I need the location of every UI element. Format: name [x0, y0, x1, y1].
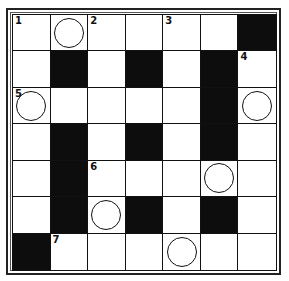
black-cell	[51, 197, 89, 233]
grid-cell[interactable]	[13, 161, 51, 197]
grid-cell[interactable]	[163, 51, 201, 87]
grid-cell[interactable]	[13, 51, 51, 87]
grid-cell[interactable]: 7	[51, 234, 89, 270]
clue-number: 1	[15, 15, 22, 26]
grid-cell[interactable]	[88, 88, 126, 124]
grid-cell[interactable]	[88, 124, 126, 160]
crossword-grid: 1234567	[12, 14, 277, 271]
grid-cell[interactable]	[88, 234, 126, 270]
grid-cell[interactable]	[126, 88, 164, 124]
black-cell	[201, 88, 239, 124]
grid-cell[interactable]	[238, 234, 276, 270]
grid-cell[interactable]	[201, 234, 239, 270]
clue-number: 4	[240, 51, 247, 62]
circle-marker-icon	[91, 200, 121, 230]
black-cell	[126, 124, 164, 160]
grid-cell[interactable]	[88, 51, 126, 87]
black-cell	[51, 124, 89, 160]
circle-marker-icon	[54, 18, 84, 48]
grid-cell[interactable]	[163, 161, 201, 197]
grid-cell[interactable]	[238, 88, 276, 124]
grid-cell[interactable]	[201, 15, 239, 51]
clue-number: 6	[90, 161, 97, 172]
grid-cell[interactable]: 5	[13, 88, 51, 124]
clue-number: 3	[165, 15, 172, 26]
grid-cell[interactable]	[126, 15, 164, 51]
grid-cell[interactable]	[51, 88, 89, 124]
clue-number: 2	[90, 15, 97, 26]
grid-cell[interactable]	[163, 124, 201, 160]
circle-marker-icon	[204, 163, 234, 193]
clue-number: 7	[53, 234, 60, 245]
grid-cell[interactable]	[126, 161, 164, 197]
grid-cell[interactable]	[238, 124, 276, 160]
grid-cell[interactable]	[51, 15, 89, 51]
black-cell	[126, 197, 164, 233]
black-cell	[201, 124, 239, 160]
black-cell	[126, 51, 164, 87]
grid-cell[interactable]	[238, 197, 276, 233]
circle-marker-icon	[167, 237, 197, 267]
black-cell	[201, 51, 239, 87]
grid-cell[interactable]: 4	[238, 51, 276, 87]
grid-cell[interactable]: 2	[88, 15, 126, 51]
grid-cell[interactable]	[238, 161, 276, 197]
black-cell	[201, 197, 239, 233]
grid-cell[interactable]	[88, 197, 126, 233]
black-cell	[51, 161, 89, 197]
black-cell	[238, 15, 276, 51]
grid-cell[interactable]: 3	[163, 15, 201, 51]
grid-cell[interactable]: 6	[88, 161, 126, 197]
black-cell	[51, 51, 89, 87]
clue-number: 5	[15, 88, 22, 99]
grid-cell[interactable]	[163, 88, 201, 124]
grid-cell[interactable]	[163, 197, 201, 233]
grid-cell[interactable]	[13, 124, 51, 160]
black-cell	[13, 234, 51, 270]
grid-cell[interactable]	[126, 234, 164, 270]
grid-cell[interactable]	[201, 161, 239, 197]
grid-cell[interactable]	[163, 234, 201, 270]
grid-cell[interactable]	[13, 197, 51, 233]
grid-cell[interactable]: 1	[13, 15, 51, 51]
circle-marker-icon	[242, 91, 272, 121]
